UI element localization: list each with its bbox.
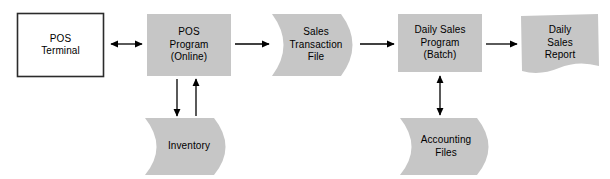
pos-program-shape[interactable] (147, 14, 231, 76)
pos-terminal-shape[interactable] (18, 14, 104, 77)
sales-transaction-file-shape[interactable] (272, 14, 353, 76)
accounting-files-shape[interactable] (400, 118, 489, 175)
daily-sales-report-shape[interactable] (521, 14, 599, 73)
data-flow-diagram: POS Terminal POS Program (Online) Sales … (0, 0, 610, 179)
inventory-shape[interactable] (145, 118, 226, 175)
daily-sales-program-shape[interactable] (398, 14, 482, 72)
diagram-canvas-svg (0, 0, 610, 179)
